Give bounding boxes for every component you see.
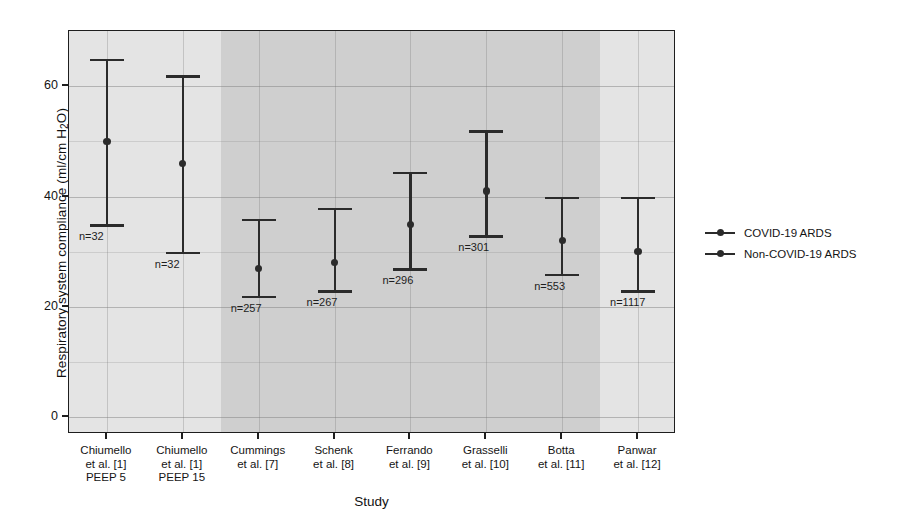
y-axis-title-suffix: O): [54, 108, 69, 123]
error-bar-cap-upper: [393, 172, 427, 174]
error-bar-cap-lower: [242, 296, 276, 298]
error-bar-cap-upper: [469, 130, 503, 132]
error-bar-cap-upper: [318, 208, 352, 210]
error-bar-cap-lower: [545, 274, 579, 276]
x-tick-mark: [636, 433, 638, 439]
error-bar-cap-upper: [242, 219, 276, 221]
error-bar-stem: [637, 197, 639, 291]
gridline-horizontal-minor: [69, 141, 674, 142]
legend-dot: [717, 229, 724, 236]
x-tick-label-line: et al. [12]: [585, 458, 689, 472]
sample-size-label: n=257: [231, 302, 262, 314]
y-axis-title-text: Respiratory system compliance (ml/cm H: [54, 129, 69, 378]
error-bar-stem: [334, 208, 336, 291]
x-tick-mark: [560, 433, 562, 439]
error-bar-cap-lower: [469, 235, 503, 237]
gridline-horizontal-minor: [69, 252, 674, 253]
error-bar-chart: Respiratory system compliance (ml/cm H2O…: [0, 0, 909, 531]
gridline-horizontal-minor: [69, 362, 674, 363]
sample-size-label: n=301: [458, 241, 489, 253]
error-bar-cap-lower: [90, 224, 124, 226]
sample-size-label: n=296: [382, 274, 413, 286]
x-tick-mark: [257, 433, 259, 439]
x-tick-mark: [408, 433, 410, 439]
y-tick-label: 20: [32, 299, 58, 313]
error-bar-cap-lower: [393, 268, 427, 270]
x-tick-mark: [105, 433, 107, 439]
sample-size-label: n=1117: [610, 296, 645, 308]
error-bar-cap-upper: [621, 197, 655, 199]
y-tick-label: 40: [32, 189, 58, 203]
legend-item[interactable]: COVID-19 ARDS: [705, 222, 856, 243]
sample-size-label: n=267: [307, 296, 338, 308]
error-bar-stem: [485, 130, 487, 235]
x-tick-label-line: Panwar: [585, 444, 689, 458]
y-tick-label: 60: [32, 78, 58, 92]
sample-size-label: n=32: [155, 258, 180, 270]
sample-size-label: n=553: [534, 280, 565, 292]
error-bar-cap-upper: [90, 59, 124, 61]
legend-label: COVID-19 ARDS: [744, 227, 832, 239]
error-bar-stem: [258, 219, 260, 296]
legend-marker-icon: [705, 247, 735, 261]
gridline-horizontal: [69, 307, 674, 308]
data-point-marker: [103, 138, 110, 145]
legend-item[interactable]: Non-COVID-19 ARDS: [705, 243, 856, 264]
x-tick-mark: [333, 433, 335, 439]
x-axis-title: Study: [68, 494, 675, 509]
x-tick-mark: [181, 433, 183, 439]
error-bar-cap-upper: [166, 75, 200, 77]
error-bar-stem: [561, 197, 563, 274]
x-tick-mark: [484, 433, 486, 439]
x-tick-label: Panwaret al. [12]: [585, 444, 689, 471]
legend-marker-icon: [705, 226, 735, 240]
gridline-horizontal: [69, 417, 674, 418]
sample-size-label: n=32: [79, 230, 104, 242]
x-tick-label-line: PEEP 15: [130, 471, 234, 485]
error-bar-cap-lower: [166, 252, 200, 254]
gridline-horizontal: [69, 197, 674, 198]
error-bar-cap-lower: [621, 290, 655, 292]
gridline-horizontal: [69, 86, 674, 87]
error-bar-cap-upper: [545, 197, 579, 199]
legend-dot: [717, 250, 724, 257]
data-point-marker: [483, 187, 490, 194]
plot-area: n=32n=32n=257n=267n=296n=301n=553n=1117: [68, 30, 675, 433]
legend: COVID-19 ARDSNon-COVID-19 ARDS: [705, 222, 856, 264]
y-tick-label: 0: [32, 409, 58, 423]
data-point-marker: [407, 221, 414, 228]
legend-label: Non-COVID-19 ARDS: [744, 248, 856, 260]
error-bar-cap-lower: [318, 290, 352, 292]
